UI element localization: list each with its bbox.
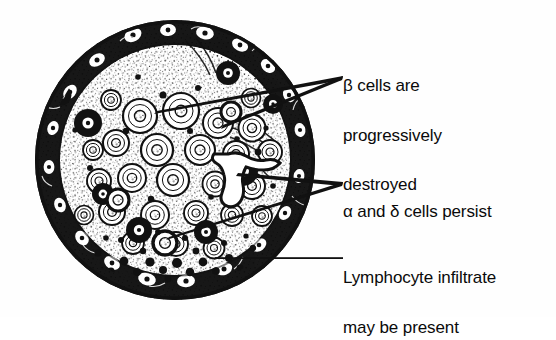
leader-lymphocyte-infiltrate <box>215 257 343 259</box>
alpha-delta-cells-label-line-1: α and δ cells persist <box>343 204 492 221</box>
lymphocyte-infiltrate-label: Lymphocyte infiltrate may be present <box>343 237 496 340</box>
beta-cells-label-line-1: β cells are <box>343 78 442 95</box>
lymphocyte-infiltrate-label-line-2: may be present <box>343 320 496 337</box>
lymphocyte-infiltrate-label-line-1: Lymphocyte infiltrate <box>343 270 496 287</box>
alpha-delta-cells-label: α and δ cells persist <box>343 171 492 237</box>
beta-cells-label-line-2: progressively <box>343 128 442 145</box>
